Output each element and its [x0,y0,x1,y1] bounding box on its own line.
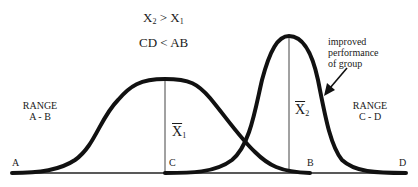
x1-bar-sub: 1 [182,131,186,140]
range-right-title: RANGE [350,100,390,111]
x1-bar-var: X [172,124,182,139]
annotation-line-3: of group [328,58,379,69]
annotation-line-1: improved [328,36,379,47]
x1-sub: 1 [180,17,184,26]
range-left-span: A - B [20,111,60,122]
x2-sub: 2 [152,17,156,26]
mean-label-x2: X2 [295,102,309,118]
means-inequality: X2 > X1 [143,10,184,26]
curves-canvas [0,0,418,187]
mean-label-x1: X1 [172,124,186,140]
x2-var: X [143,10,152,25]
x2-bar-var: X [295,102,305,117]
point-c: C [169,157,176,168]
range-left-title: RANGE [20,100,60,111]
greater-than: > [160,10,167,25]
range-right-label: RANGE C - D [350,100,390,122]
point-b: B [307,157,314,168]
annotation-arrow-shaft [330,68,347,88]
point-d: D [399,157,406,168]
annotation-text: improved performance of group [328,36,379,69]
annotation-line-2: performance [328,47,379,58]
x1-var: X [170,10,179,25]
distribution-diagram: X2 > X1 CD < AB improved performance of … [0,0,418,187]
curve-group-1 [12,79,310,173]
ranges-inequality: CD < AB [139,35,188,51]
range-left-label: RANGE A - B [20,100,60,122]
x2-bar-sub: 2 [305,109,309,118]
point-a: A [12,157,19,168]
range-right-span: C - D [350,111,390,122]
